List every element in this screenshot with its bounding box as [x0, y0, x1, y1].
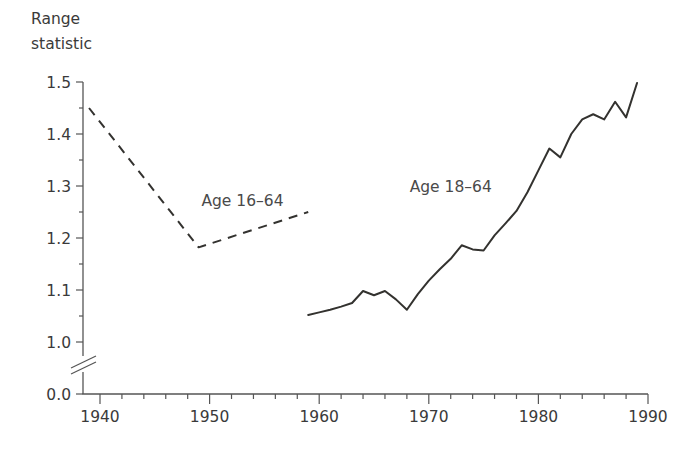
y-tick-label-1.1: 1.1: [46, 282, 71, 300]
y-axis-title-line1: Range: [31, 10, 80, 28]
x-tick-label-1990: 1990: [628, 408, 667, 426]
x-tick-label-1960: 1960: [299, 408, 338, 426]
series-label-age-16-64: Age 16–64: [201, 192, 283, 210]
series-labels: Age 16–64Age 18–64: [201, 178, 491, 210]
y-tick-label-1.0: 1.0: [46, 334, 71, 352]
x-tick-label-1940: 1940: [80, 408, 119, 426]
axis-break-slash-1: [71, 356, 96, 368]
y-axis: 0.01.01.11.21.31.41.5: [46, 74, 96, 404]
x-tick-label-1980: 1980: [519, 408, 558, 426]
x-tick-label-1970: 1970: [409, 408, 448, 426]
series-line-age-18-64: [308, 83, 637, 315]
y-tick-label-1.3: 1.3: [46, 178, 71, 196]
y-tick-label-0.0: 0.0: [46, 386, 71, 404]
x-axis: 194019501960197019801990: [80, 394, 667, 426]
range-statistic-chart: Range statistic 0.01.01.11.21.31.41.5 19…: [0, 0, 688, 451]
y-tick-label-1.2: 1.2: [46, 230, 71, 248]
y-axis-title-line2: statistic: [31, 35, 92, 53]
series-line-age-16-64: [89, 108, 308, 247]
data-series: [89, 83, 637, 315]
y-tick-label-1.4: 1.4: [46, 126, 71, 144]
y-tick-label-1.5: 1.5: [46, 74, 71, 92]
series-label-age-18-64: Age 18–64: [410, 178, 492, 196]
x-tick-label-1950: 1950: [190, 408, 229, 426]
